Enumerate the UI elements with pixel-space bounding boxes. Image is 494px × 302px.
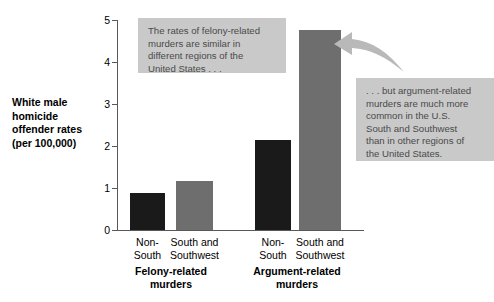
callout-argument-note: . . . but argument-relatedmurders are mu…: [356, 78, 494, 161]
y-axis-tick-0: [112, 230, 118, 231]
x-axis-line: [117, 230, 364, 231]
group-label-line-1: Felony-related: [111, 265, 231, 278]
category-label-line-1: South and: [282, 236, 358, 249]
group-label-line-1: Argument-related: [237, 265, 357, 278]
callout-argument-note-line-2: murders are much more: [366, 98, 485, 111]
y-axis-line: [117, 20, 118, 231]
bar-1-non-south: [255, 140, 291, 230]
callout-felony-note-line-2: murders are similar in: [148, 38, 277, 51]
y-axis-tick-label-2: 2: [88, 141, 110, 151]
group-label-line-2: murders: [111, 278, 231, 291]
bar-0-south-southwest: [176, 181, 213, 230]
category-label-line-1: South and: [157, 236, 233, 249]
arrow-icon: [330, 28, 422, 90]
y-axis-tick-label-4: 4: [88, 57, 110, 67]
callout-felony-note: The rates of felony-relatedmurders are s…: [138, 18, 286, 73]
y-axis-title-line-3: offender rates: [12, 123, 104, 137]
category-label: South andSouthwest: [282, 236, 358, 261]
y-axis-tick-1: [112, 188, 118, 189]
y-axis-tick-5: [112, 20, 118, 21]
y-axis-tick-label-0: 0: [88, 225, 110, 235]
callout-arrow: [330, 28, 422, 90]
bar-0-non-south: [130, 193, 165, 230]
callout-argument-note-line-5: than in other regions of: [366, 135, 485, 148]
y-axis-title-line-2: homicide: [12, 110, 104, 124]
bar-chart: White male homicide offender rates (per …: [0, 0, 494, 302]
callout-felony-note-line-1: The rates of felony-related: [148, 25, 277, 38]
callout-felony-note-line-4: United States . . .: [148, 63, 277, 76]
callout-argument-note-line-3: common in the U.S.: [366, 110, 485, 123]
group-label-1: Argument-relatedmurders: [237, 265, 357, 290]
y-axis-tick-4: [112, 62, 118, 63]
y-axis-tick-3: [112, 104, 118, 105]
category-label-line-2: Southwest: [157, 249, 233, 262]
callout-argument-note-line-4: South and Southwest: [366, 123, 485, 136]
y-axis-tick-label-1: 1: [88, 183, 110, 193]
y-axis-tick-label-5: 5: [88, 15, 110, 25]
y-axis-tick-label-3: 3: [88, 99, 110, 109]
category-label: South andSouthwest: [157, 236, 233, 261]
callout-argument-note-line-6: the United States.: [366, 148, 485, 161]
y-axis-tick-2: [112, 146, 118, 147]
category-label-line-2: Southwest: [282, 249, 358, 262]
callout-felony-note-line-3: different regions of the: [148, 50, 277, 63]
group-label-line-2: murders: [237, 278, 357, 291]
group-label-0: Felony-relatedmurders: [111, 265, 231, 290]
